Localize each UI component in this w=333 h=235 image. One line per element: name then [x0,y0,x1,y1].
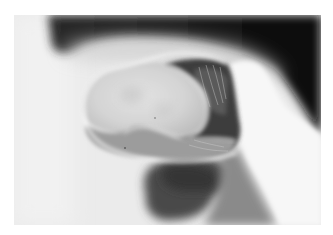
radiograph-image [14,15,321,225]
radiograph-illustration [14,15,321,225]
